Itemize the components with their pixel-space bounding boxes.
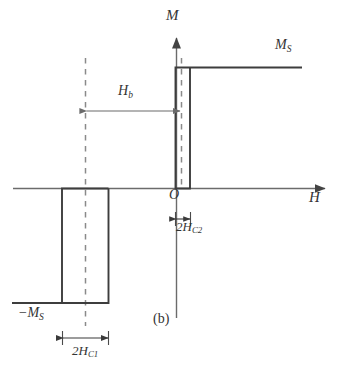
positive-saturation-label: MS (275, 38, 291, 54)
positive-saturation-base: M (275, 37, 287, 52)
right-loop-path (176, 68, 303, 189)
bias-field-base: H (118, 83, 128, 98)
right-square-loop (176, 68, 303, 189)
origin-label: O (169, 188, 179, 202)
bias-field-label: Hb (118, 84, 133, 100)
left-square-loop (12, 189, 109, 304)
coercivity-left-base: 2H (72, 343, 88, 358)
negative-saturation-label: −MS (18, 306, 44, 322)
panel-label: (b) (153, 312, 169, 326)
left-loop-path (12, 189, 109, 304)
y-axis-label: M (166, 8, 179, 23)
axes-group (13, 38, 325, 318)
coercivity-right-subscript: C2 (192, 225, 202, 235)
x-axis-label: H (309, 190, 320, 205)
coercivity-left-subscript: C1 (88, 349, 98, 359)
negative-saturation-subscript: S (39, 312, 44, 322)
hysteresis-figure: M H MS −MS Hb O 2HC2 2HC1 (b) (0, 0, 338, 371)
positive-saturation-subscript: S (287, 44, 292, 54)
negative-saturation-base: −M (18, 305, 39, 320)
coercivity-right-label: 2HC2 (176, 220, 202, 235)
bias-field-subscript: b (128, 90, 133, 100)
coercivity-left-label: 2HC1 (72, 344, 98, 359)
coercivity-right-base: 2H (176, 219, 192, 234)
dashed-guides-group (86, 58, 182, 326)
